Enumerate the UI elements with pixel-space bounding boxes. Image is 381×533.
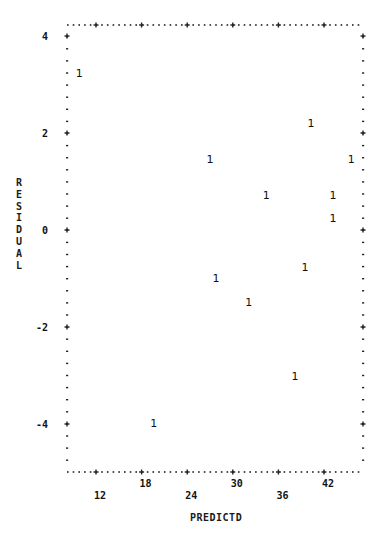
data-point: 1	[330, 189, 337, 202]
x-axis-title: PREDICTD	[190, 512, 242, 523]
x-tick-label: 12	[94, 490, 106, 501]
data-point: 1	[207, 153, 214, 166]
data-point: 1	[263, 189, 270, 202]
data-point: 1	[213, 272, 220, 285]
x-tick-label: 30	[231, 478, 243, 489]
data-point: 1	[308, 117, 315, 130]
data-points: 111111111111	[76, 67, 355, 430]
data-point: 1	[76, 67, 83, 80]
y-axis-title: RESIDUAL	[14, 177, 24, 271]
data-point: 1	[330, 212, 337, 225]
plot-frame	[66, 24, 364, 473]
y-tick-label: -2	[36, 322, 48, 333]
y-tick-label: -4	[36, 419, 48, 430]
data-point: 1	[348, 153, 355, 166]
x-tick-label: 24	[185, 490, 197, 501]
x-axis-ticks: 121824303642	[94, 23, 335, 502]
x-tick-label: 18	[140, 478, 152, 489]
scatter-plot: 420-2-4 121824303642 111111111111	[0, 0, 381, 533]
data-point: 1	[245, 296, 252, 309]
y-axis-ticks: 420-2-4	[36, 31, 366, 430]
data-point: 1	[302, 261, 309, 274]
data-point: 1	[150, 417, 157, 430]
x-tick-label: 42	[322, 478, 334, 489]
data-point: 1	[292, 370, 299, 383]
y-tick-label: 4	[42, 31, 48, 42]
x-tick-label: 36	[276, 490, 288, 501]
y-tick-label: 0	[42, 225, 48, 236]
y-tick-label: 2	[42, 128, 48, 139]
